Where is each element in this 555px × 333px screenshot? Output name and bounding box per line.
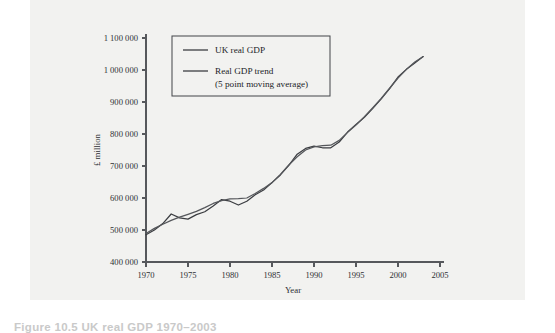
gdp-line-chart: 400 000500 000600 000700 000800 000900 0…: [30, 0, 525, 300]
y-axis-tick-label: 1 000 000: [104, 65, 138, 75]
x-axis-tick-label: 1995: [347, 270, 364, 280]
x-axis-tick-label: 1990: [305, 270, 322, 280]
y-axis-title: £ million: [92, 133, 102, 166]
x-axis-title: Year: [285, 285, 301, 295]
figure-caption: Figure 10.5 UK real GDP 1970–2003: [14, 321, 217, 333]
x-axis-tick-label: 1970: [137, 270, 154, 280]
x-axis-tick-label: 2000: [389, 270, 406, 280]
y-axis-tick-label: 400 000: [110, 257, 138, 267]
y-axis-tick-label: 800 000: [110, 129, 138, 139]
x-axis-tick-label: 1980: [221, 270, 238, 280]
y-axis-tick-label: 600 000: [110, 193, 138, 203]
chart-plot-area: 400 000500 000600 000700 000800 000900 0…: [30, 0, 525, 300]
x-axis-tick-label: 1975: [179, 270, 196, 280]
x-axis-tick-label: 2005: [431, 270, 448, 280]
x-axis-tick-label: 1985: [263, 270, 280, 280]
y-axis-tick-label: 700 000: [110, 161, 138, 171]
y-axis-tick-label: 1 100 000: [104, 33, 138, 43]
y-axis-tick-label: 500 000: [110, 225, 138, 235]
y-axis-tick-label: 900 000: [110, 97, 138, 107]
legend-label: Real GDP trend: [215, 66, 274, 76]
legend-label: UK real GDP: [215, 45, 265, 55]
figure-panel: 400 000500 000600 000700 000800 000900 0…: [30, 0, 525, 300]
legend-sublabel: (5 point moving average): [215, 79, 308, 89]
